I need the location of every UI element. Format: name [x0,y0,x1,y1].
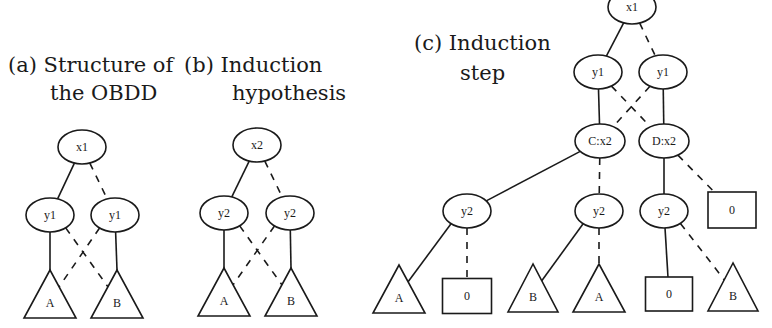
node-label: C:x2 [588,134,611,148]
high-edge-b_x2-b_y2L [232,161,249,197]
low-edge-a_y1L-a_B [66,228,108,287]
low-edge-c_x1-c_y1R [640,23,656,56]
variable-node: y2 [575,194,623,228]
low-edge-b_x2-b_y2R [265,161,282,197]
high-edge-a_x1-a_y1L [58,163,75,199]
variable-node: y2 [443,194,491,228]
high-edge-b_y2R-b_B [290,230,291,268]
node-label: A [46,296,55,310]
node-label: x1 [626,0,638,14]
node-label: B [287,294,295,308]
triangle-shape [508,264,558,312]
variable-node: y2 [640,194,688,228]
variable-node: x2 [233,128,281,162]
low-edge-b_y2R-b_A [233,226,274,285]
caption-c-line2: step [460,61,505,85]
node-label: y2 [658,204,670,218]
node-label: B [729,289,737,303]
node-label: y1 [657,65,669,79]
low-edge-c_D-c_0top [678,155,714,192]
low-edge-c_C-c_y2b [599,158,600,194]
node-label: y2 [593,204,605,218]
variable-node: x1 [58,130,106,164]
node-label: x1 [76,140,88,154]
high-edge-c_y2a-c_A1 [408,224,451,282]
triangle-shape [24,270,76,318]
variable-node: y2 [200,196,248,230]
low-edge-b_y2L-b_B [240,226,282,285]
caption-a-line1: (a) Structure of [8,53,175,77]
terminal-node: 0 [646,277,693,311]
low-edge-c_y1L-c_D [611,86,650,127]
obdd-diagram: x1y1y1ABx2y2y2ABx1y1y1C:x2D:x2y2y2y20A0B… [0,0,772,328]
high-edge-c_y1L-c_C [598,89,599,124]
variable-node: y2 [266,196,314,230]
node-label: y1 [109,208,121,222]
variable-node: y1 [26,198,74,232]
node-label: y1 [592,65,604,79]
low-edge-c_y2c-c_B2 [680,223,724,279]
node-label: y1 [44,208,56,222]
caption-a-line2: the OBDD [50,81,157,105]
node-label: B [529,290,537,304]
triangle-shape [265,268,317,316]
caption-b-line1: (b) Induction [184,53,322,77]
subgraph-node: A [573,264,625,312]
triangle-shape [373,265,425,313]
node-label: A [595,290,604,304]
node-label: A [220,294,229,308]
triangle-shape [573,264,625,312]
variable-node: y1 [574,55,622,89]
node-label: x2 [251,138,263,152]
variable-node: x1 [608,0,656,24]
high-edge-c_y1R-c_D [663,89,664,124]
variable-node: C:x2 [575,124,625,158]
high-edge-c_x1-c_y1L [606,23,623,56]
high-edge-a_y1R-a_B [116,232,117,270]
subgraph-node: A [198,268,250,316]
low-edge-a_y1R-a_A [59,228,99,287]
subgraph-node: B [708,263,758,311]
caption-b-line2: hypothesis [232,81,346,105]
subgraph-node: B [265,268,317,316]
high-edge-c_C-c_y2a [486,151,580,200]
variable-node: D:x2 [639,124,689,158]
subgraph-node: B [91,270,143,318]
triangle-shape [198,268,250,316]
variable-node: y1 [639,55,687,89]
subgraph-node: A [24,270,76,318]
low-edge-a_x1-a_y1R [90,163,107,199]
node-label: 0 [666,287,672,301]
variable-node: y1 [91,198,139,232]
node-label: y2 [461,204,473,218]
terminal-node: 0 [708,192,756,228]
node-label: A [395,291,404,305]
caption-c-line1: (c) Induction [414,31,551,55]
terminal-node: 0 [443,279,492,314]
node-label: y2 [284,206,296,220]
triangle-shape [708,263,758,311]
node-label: y2 [218,206,230,220]
high-edge-c_y2c-c_02 [665,228,668,277]
nodes-layer: x1y1y1ABx2y2y2ABx1y1y1C:x2D:x2y2y2y20A0B… [24,0,758,318]
node-label: D:x2 [652,134,676,148]
node-label: 0 [464,289,470,303]
node-label: B [113,296,121,310]
subgraph-node: B [508,264,558,312]
subgraph-node: A [373,265,425,313]
high-edge-c_y2b-c_B1 [542,224,583,281]
triangle-shape [91,270,143,318]
node-label: 0 [729,203,735,217]
